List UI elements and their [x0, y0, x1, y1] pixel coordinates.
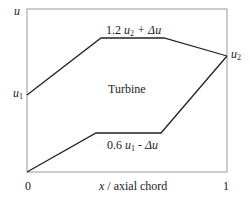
x-tick-1: 1 — [223, 180, 229, 192]
x-tick-0: 0 — [25, 180, 31, 192]
y-axis-label: u — [14, 5, 20, 17]
x-axis-label: x / axial chord — [99, 180, 167, 192]
upper-curve-label: 1.2 u2 + Δu — [106, 24, 161, 36]
u1-label: u1 — [13, 87, 23, 99]
turbine-label: Turbine — [108, 83, 146, 95]
u2-label: u2 — [231, 48, 241, 60]
lower-curve-label: 0.6 u1 - Δu — [107, 139, 158, 151]
lower-velocity-curve — [27, 56, 227, 172]
